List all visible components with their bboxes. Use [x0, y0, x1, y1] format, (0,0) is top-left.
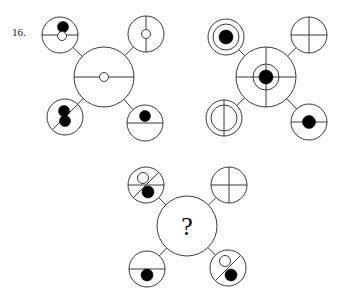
figures-layer: ?	[42, 16, 327, 287]
puzzle-container: 16. ?	[0, 0, 343, 301]
connector-spoke	[208, 198, 216, 205]
connector-spoke	[78, 98, 83, 104]
connector-spoke	[159, 248, 166, 256]
connector-spoke	[73, 47, 82, 56]
open-dot	[138, 173, 149, 184]
puzzle-diagram: 16. ?	[0, 0, 343, 301]
filled-dot	[58, 22, 69, 33]
filled-dot	[142, 186, 154, 198]
satellite-top-right	[291, 17, 327, 53]
satellite-top-right	[211, 167, 247, 203]
satellite-bottom-right	[291, 104, 327, 140]
center-circle-unknown: ?	[157, 196, 217, 256]
open-dot	[100, 73, 109, 82]
second-analogy-figure	[206, 17, 327, 140]
filled-dot	[140, 111, 151, 122]
open-dot	[220, 256, 231, 267]
connector-spoke	[124, 99, 133, 109]
open-dot	[142, 30, 151, 39]
filled-dot	[59, 106, 70, 117]
center-circle	[74, 47, 134, 107]
connector-spoke	[159, 198, 166, 205]
open-dot	[58, 32, 67, 41]
connector-spoke	[239, 50, 245, 56]
question-mark: ?	[181, 212, 193, 241]
filled-dot	[225, 269, 237, 281]
satellite-bottom-right	[210, 250, 246, 286]
satellite-bottom-left	[129, 251, 165, 287]
connector-spoke	[125, 47, 133, 56]
satellite-bottom-left	[206, 100, 242, 136]
connector-spoke	[237, 98, 245, 105]
question-number-label: 16.	[12, 26, 26, 38]
center-circle	[236, 47, 296, 107]
satellite-top-left	[42, 17, 78, 53]
connector-spoke	[208, 247, 215, 255]
satellite-top-left	[128, 167, 164, 203]
filled-dot	[303, 116, 316, 129]
satellite-top-left	[208, 19, 244, 55]
connector-spoke	[287, 99, 297, 109]
connector-spoke	[287, 48, 296, 56]
satellite-bottom-left	[47, 99, 83, 135]
first-analogy-figure	[42, 16, 164, 141]
filled-dot	[219, 30, 233, 44]
filled-dot	[259, 70, 273, 84]
satellite-top-right	[128, 16, 164, 52]
filled-dot	[141, 269, 153, 281]
answer-figure-with-unknown: ?	[128, 167, 247, 287]
filled-dot	[60, 116, 71, 127]
satellite-bottom-right	[127, 105, 163, 141]
